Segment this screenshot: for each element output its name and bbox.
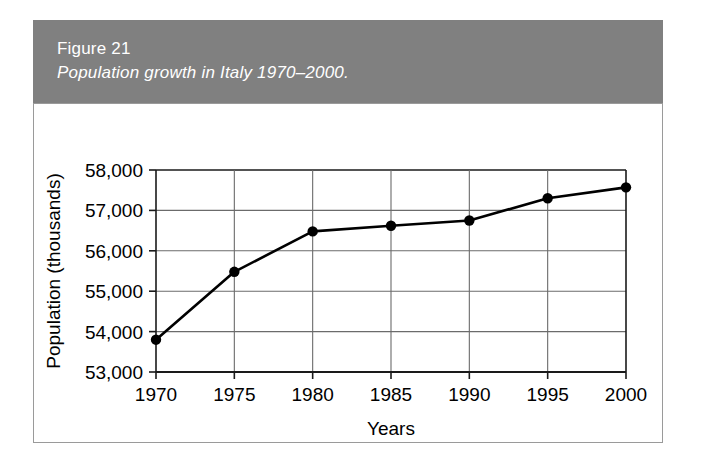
x-axis-tick-label: 1975	[213, 384, 255, 405]
figure-caption-band: Figure 21 Population growth in Italy 197…	[33, 20, 663, 103]
x-axis-tick-label: 2000	[605, 384, 647, 405]
data-point-marker	[386, 221, 396, 231]
line-chart: 53,00054,00055,00056,00057,00058,0001970…	[34, 104, 662, 442]
figure-caption-text: Population growth in Italy 1970–2000.	[57, 61, 663, 85]
x-axis-tick-label: 1990	[448, 384, 490, 405]
figure-container: Figure 21 Population growth in Italy 197…	[33, 20, 663, 443]
y-axis-title: Population (thousands)	[43, 173, 64, 368]
data-point-marker	[307, 226, 317, 236]
y-axis-tick-label: 57,000	[85, 200, 143, 221]
x-axis-tick-label: 1980	[292, 384, 334, 405]
data-point-marker	[229, 267, 239, 277]
data-point-marker	[464, 215, 474, 225]
y-axis-tick-label: 55,000	[85, 281, 143, 302]
y-axis-tick-label: 56,000	[85, 241, 143, 262]
x-axis-tick-label: 1970	[135, 384, 177, 405]
data-point-marker	[151, 334, 161, 344]
data-point-marker	[542, 193, 552, 203]
x-axis-tick-label: 1995	[527, 384, 569, 405]
x-axis-tick-label: 1985	[370, 384, 412, 405]
figure-number: Figure 21	[57, 37, 663, 61]
y-axis-tick-label: 53,000	[85, 362, 143, 383]
y-axis-tick-label: 54,000	[85, 322, 143, 343]
x-axis-title: Years	[367, 418, 415, 439]
y-axis-tick-label: 58,000	[85, 160, 143, 181]
data-point-marker	[621, 182, 631, 192]
chart-panel: 53,00054,00055,00056,00057,00058,0001970…	[33, 103, 663, 443]
